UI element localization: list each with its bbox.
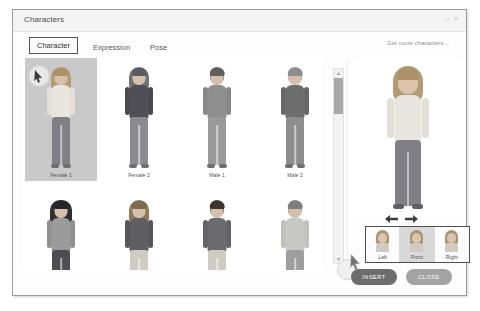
close-button[interactable]: CLOSE xyxy=(406,269,452,285)
avatar xyxy=(274,198,316,270)
preview-avatar xyxy=(377,64,439,214)
avatar xyxy=(40,198,82,270)
scroll-up-icon[interactable]: ▲ xyxy=(335,70,342,76)
character-grid[interactable]: Female 1 Female 2 xyxy=(23,58,323,270)
avatar xyxy=(196,65,238,173)
cursor-icon xyxy=(28,65,50,87)
arrow-right-icon[interactable] xyxy=(405,215,418,223)
pose-option-left[interactable]: Left xyxy=(366,227,400,262)
pose-thumbnail xyxy=(443,230,460,251)
window-controls: – × xyxy=(446,15,458,23)
panel-divider xyxy=(347,60,348,266)
insert-button[interactable]: INSERT xyxy=(351,269,397,285)
character-cell-male-1[interactable]: Male 1 xyxy=(181,58,253,181)
pose-option-right[interactable]: Right xyxy=(435,227,469,262)
pose-label-right: Right xyxy=(435,254,469,260)
character-preview xyxy=(353,58,463,218)
character-label: Male 1 xyxy=(181,172,253,178)
tab-character[interactable]: Character xyxy=(29,37,78,54)
character-cell-female-1[interactable]: Female 1 xyxy=(25,58,97,181)
tab-expression[interactable]: Expression xyxy=(86,40,137,55)
pose-label-front: Front xyxy=(400,254,433,260)
pose-thumbnail xyxy=(374,230,391,251)
dialog-footer: INSERT CLOSE xyxy=(351,269,452,285)
character-cell-6[interactable] xyxy=(103,191,175,270)
scrollbar-thumb[interactable] xyxy=(334,78,343,114)
character-cell-5[interactable] xyxy=(25,191,97,270)
character-label: Male 2 xyxy=(259,172,323,178)
avatar xyxy=(274,65,316,173)
pose-arrows xyxy=(385,215,418,223)
character-cell-7[interactable] xyxy=(181,191,253,270)
tab-pose[interactable]: Pose xyxy=(143,40,174,55)
character-label: Female 1 xyxy=(25,172,97,178)
pose-thumbnail xyxy=(408,230,425,251)
pose-label-left: Left xyxy=(366,254,399,260)
grid-scrollbar[interactable]: ▲ ▼ xyxy=(333,68,344,264)
tab-character-label: Character xyxy=(37,41,70,50)
characters-dialog: Characters – × Character Expression Pose… xyxy=(12,9,467,296)
close-icon[interactable]: × xyxy=(454,15,458,23)
arrow-left-icon[interactable] xyxy=(385,215,398,223)
minimize-icon[interactable]: – xyxy=(446,15,450,23)
character-cell-male-2[interactable]: Male 2 xyxy=(259,58,323,181)
avatar xyxy=(196,198,238,270)
avatar xyxy=(118,198,160,270)
avatar xyxy=(118,65,160,173)
character-cell-8[interactable] xyxy=(259,191,323,270)
pose-selector[interactable]: Left Front Right xyxy=(365,226,470,263)
get-more-characters-link[interactable]: Get more characters... xyxy=(387,40,449,46)
pose-option-front[interactable]: Front xyxy=(400,227,434,262)
page-title: Characters xyxy=(24,15,64,24)
character-label: Female 2 xyxy=(103,172,175,178)
character-cell-female-2[interactable]: Female 2 xyxy=(103,58,175,181)
tab-pose-label: Pose xyxy=(150,43,167,52)
title-bar: Characters – × xyxy=(13,10,466,32)
tab-expression-label: Expression xyxy=(93,43,130,52)
